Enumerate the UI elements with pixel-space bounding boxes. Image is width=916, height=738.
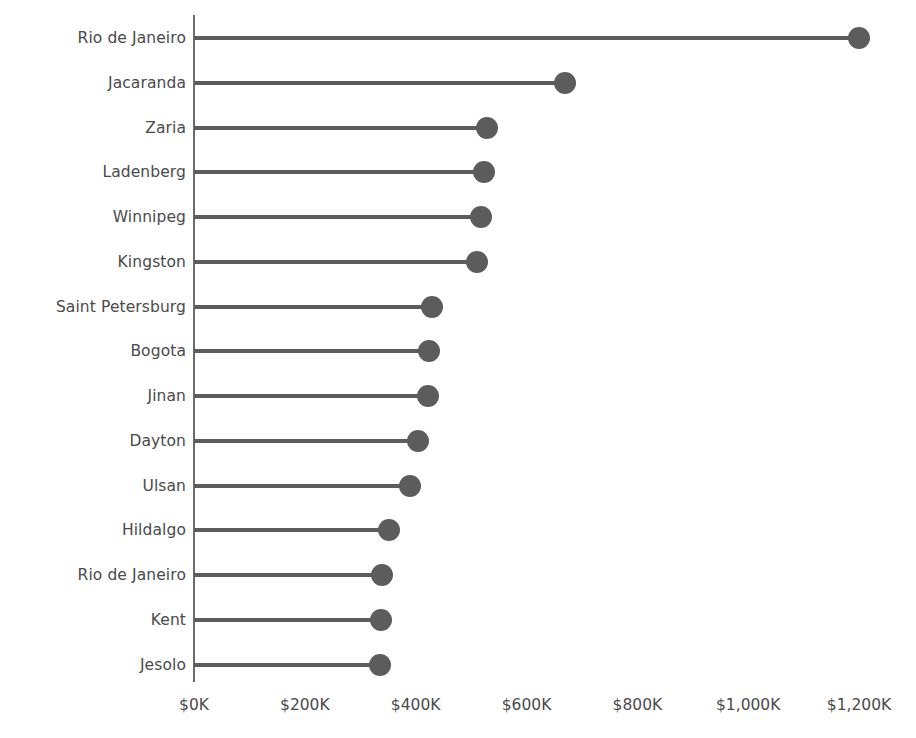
lollipop-stem <box>194 81 565 85</box>
lollipop-dot <box>378 519 400 541</box>
lollipop-dot <box>473 161 495 183</box>
x-tick-label: $1,200K <box>827 696 891 714</box>
lollipop-dot <box>417 385 439 407</box>
x-tick-label: $1,000K <box>716 696 780 714</box>
lollipop-row: Zaria <box>0 113 916 143</box>
category-label: Jacaranda <box>0 68 186 98</box>
lollipop-row: Rio de Janeiro <box>0 23 916 53</box>
lollipop-stem <box>194 663 380 667</box>
category-label: Rio de Janeiro <box>0 23 186 53</box>
category-label: Ladenberg <box>0 157 186 187</box>
category-label: Dayton <box>0 426 186 456</box>
category-label: Saint Petersburg <box>0 292 186 322</box>
lollipop-chart: Rio de JaneiroJacarandaZariaLadenbergWin… <box>0 0 916 738</box>
lollipop-row: Jacaranda <box>0 68 916 98</box>
lollipop-row: Kingston <box>0 247 916 277</box>
lollipop-dot <box>466 251 488 273</box>
category-label: Ulsan <box>0 471 186 501</box>
x-tick-label: $400K <box>391 696 441 714</box>
lollipop-dot <box>421 296 443 318</box>
x-tick-label: $200K <box>280 696 330 714</box>
lollipop-dot <box>418 340 440 362</box>
lollipop-row: Jesolo <box>0 650 916 680</box>
lollipop-dot <box>370 609 392 631</box>
lollipop-stem <box>194 260 477 264</box>
lollipop-dot <box>476 117 498 139</box>
category-label: Hildalgo <box>0 515 186 545</box>
lollipop-stem <box>194 439 418 443</box>
lollipop-row: Winnipeg <box>0 202 916 232</box>
lollipop-stem <box>194 573 382 577</box>
lollipop-row: Kent <box>0 605 916 635</box>
lollipop-row: Rio de Janeiro <box>0 560 916 590</box>
lollipop-stem <box>194 484 410 488</box>
lollipop-dot <box>407 430 429 452</box>
lollipop-stem <box>194 170 484 174</box>
lollipop-dot <box>554 72 576 94</box>
lollipop-stem <box>194 126 487 130</box>
category-label: Jesolo <box>0 650 186 680</box>
lollipop-row: Bogota <box>0 336 916 366</box>
x-tick-label: $0K <box>179 696 209 714</box>
lollipop-dot <box>371 564 393 586</box>
lollipop-stem <box>194 618 381 622</box>
category-label: Kingston <box>0 247 186 277</box>
lollipop-stem <box>194 215 481 219</box>
lollipop-dot <box>470 206 492 228</box>
x-tick-label: $800K <box>613 696 663 714</box>
lollipop-row: Saint Petersburg <box>0 292 916 322</box>
lollipop-stem <box>194 528 389 532</box>
category-label: Kent <box>0 605 186 635</box>
lollipop-dot <box>848 27 870 49</box>
lollipop-stem <box>194 305 432 309</box>
lollipop-row: Dayton <box>0 426 916 456</box>
lollipop-row: Hildalgo <box>0 515 916 545</box>
category-label: Winnipeg <box>0 202 186 232</box>
lollipop-dot <box>399 475 421 497</box>
lollipop-stem <box>194 394 428 398</box>
lollipop-row: Ladenberg <box>0 157 916 187</box>
lollipop-dot <box>369 654 391 676</box>
lollipop-stem <box>194 349 429 353</box>
category-label: Jinan <box>0 381 186 411</box>
lollipop-row: Ulsan <box>0 471 916 501</box>
lollipop-stem <box>194 36 859 40</box>
x-tick-label: $600K <box>502 696 552 714</box>
category-label: Rio de Janeiro <box>0 560 186 590</box>
category-label: Zaria <box>0 113 186 143</box>
lollipop-row: Jinan <box>0 381 916 411</box>
category-label: Bogota <box>0 336 186 366</box>
